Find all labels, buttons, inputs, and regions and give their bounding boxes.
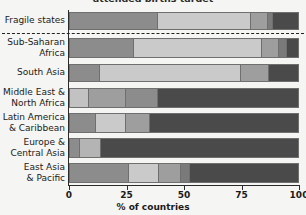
category-label-line: North Africa — [3, 98, 65, 109]
bar-row — [69, 113, 299, 133]
category-label-line: Middle East & — [3, 87, 65, 98]
x-tick-label: 75 — [235, 190, 248, 200]
category-label: Latin America& Caribbean — [3, 112, 65, 133]
category-label-line: & Caribbean — [3, 123, 65, 134]
bar-segment — [261, 39, 278, 57]
category-label: Sub-SaharanAfrica — [7, 37, 65, 58]
bar-row — [69, 138, 299, 158]
bar-segment — [99, 65, 240, 81]
bar-row — [69, 88, 299, 108]
category-label-line: Fragile states — [5, 15, 65, 26]
bar-segment — [70, 13, 157, 29]
x-axis-title: % of countries — [0, 202, 306, 212]
bar-segment — [95, 114, 125, 132]
category-label: South Asia — [17, 67, 65, 78]
category-label: Middle East &North Africa — [3, 87, 65, 108]
bar-segment — [278, 39, 286, 57]
x-tick-label: 25 — [120, 190, 133, 200]
bar-segment — [125, 89, 157, 107]
chart-title: attended births target — [0, 0, 306, 2]
bar-segment — [70, 114, 95, 132]
bar-segment — [88, 89, 125, 107]
bar-segment — [189, 164, 298, 182]
category-label: East Asia& Pacific — [24, 162, 65, 183]
category-label-line: Latin America — [3, 112, 65, 123]
category-label-line: & Pacific — [24, 173, 65, 184]
category-label-line: Sub-Saharan — [7, 37, 65, 48]
bar-segment — [157, 89, 298, 107]
bar-segment — [100, 139, 298, 157]
bar-segment — [70, 139, 79, 157]
bar-segment — [70, 164, 128, 182]
bar-segment — [180, 164, 190, 182]
category-label-line: East Asia — [24, 162, 65, 173]
bar-segment — [149, 114, 299, 132]
bar-segment — [158, 164, 179, 182]
fragile-states-separator — [2, 33, 304, 34]
bar-segment — [268, 65, 298, 81]
bar-segment — [240, 65, 268, 81]
category-label-line: Africa — [7, 48, 65, 59]
bar-segment — [79, 139, 100, 157]
bar-row — [69, 12, 299, 30]
bar-segment — [133, 39, 262, 57]
category-label-line: South Asia — [17, 67, 65, 78]
bar-segment — [286, 39, 298, 57]
bar-segment — [128, 164, 158, 182]
bar-row — [69, 38, 299, 58]
bar-row — [69, 64, 299, 82]
x-tick-label: 50 — [178, 190, 191, 200]
bar-segment — [70, 65, 99, 81]
x-tick-label: 100 — [290, 190, 306, 200]
x-tick-label: 0 — [66, 190, 72, 200]
bar-segment — [70, 39, 133, 57]
category-label-line: Europe & — [11, 137, 66, 148]
category-label-line: Central Asia — [11, 148, 66, 159]
category-label: Fragile states — [5, 15, 65, 26]
bar-segment — [272, 13, 298, 29]
bar-segment — [157, 13, 250, 29]
bar-segment — [70, 89, 88, 107]
category-label: Europe &Central Asia — [11, 137, 66, 158]
bar-segment — [250, 13, 267, 29]
bar-segment — [125, 114, 149, 132]
bar-row — [69, 163, 299, 183]
stacked-bar-chart: attended births target Fragile statesSub… — [0, 0, 306, 215]
